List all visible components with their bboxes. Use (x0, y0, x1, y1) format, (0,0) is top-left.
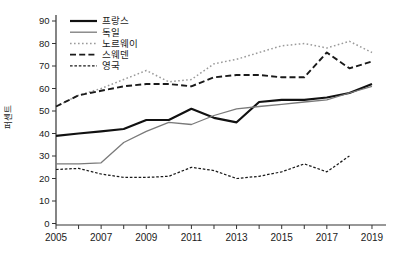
y-tick-label: 40 (39, 128, 50, 139)
legend-label-norway: 노르웨이 (102, 38, 138, 49)
legend-label-france: 프랑스 (102, 15, 129, 26)
line-chart: 0102030405060708090200520072009201120132… (0, 0, 398, 256)
y-tick-label: 90 (39, 15, 50, 26)
y-tick-label: 60 (39, 83, 50, 94)
legend-label-sweden: 스웨덴 (102, 49, 129, 60)
x-tick-label: 2013 (225, 232, 248, 243)
y-tick-label: 0 (44, 218, 49, 229)
y-tick-label: 50 (39, 105, 50, 116)
x-tick-label: 2019 (361, 232, 384, 243)
x-tick-label: 2007 (90, 232, 113, 243)
x-tick-label: 2005 (45, 232, 68, 243)
y-axis-title: 퍼센트 (3, 105, 13, 129)
y-tick-label: 70 (39, 60, 50, 71)
legend-label-germany: 독일 (102, 27, 120, 38)
x-tick-label: 2011 (181, 232, 203, 243)
series-line-uk (56, 156, 349, 179)
series-line-france (56, 84, 372, 136)
chart-figure: 0102030405060708090200520072009201120132… (0, 0, 398, 256)
legend-label-uk: 영국 (102, 60, 120, 71)
x-tick-label: 2015 (271, 232, 294, 243)
x-tick-label: 2017 (316, 232, 339, 243)
y-tick-label: 10 (39, 195, 50, 206)
y-tick-label: 30 (39, 150, 50, 161)
x-tick-label: 2009 (135, 232, 158, 243)
y-tick-label: 80 (39, 38, 50, 49)
y-tick-label: 20 (39, 173, 50, 184)
